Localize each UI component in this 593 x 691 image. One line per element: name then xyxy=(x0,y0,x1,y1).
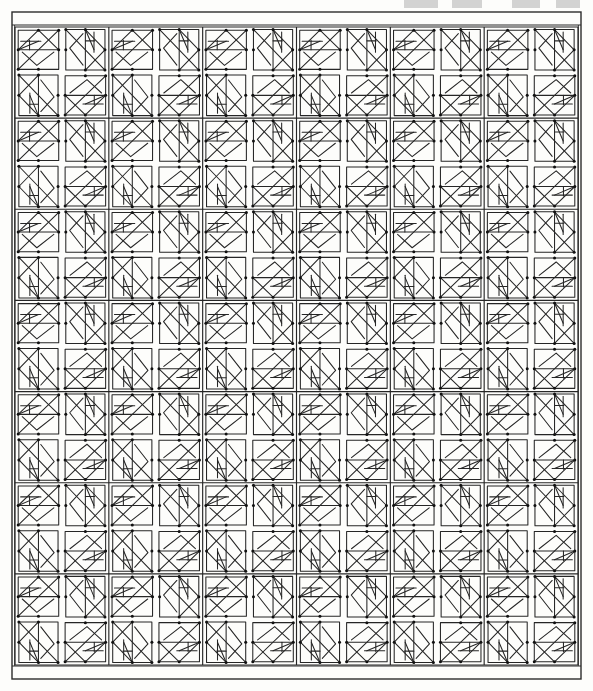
vertex-dot xyxy=(64,276,67,279)
vertex-dot xyxy=(57,388,60,391)
vertex-dot xyxy=(17,276,20,279)
vertex-dot xyxy=(412,479,415,482)
vertex-dot xyxy=(526,276,529,279)
vertex-dot xyxy=(553,210,556,213)
vertex-dot xyxy=(412,524,415,527)
vertex-dot xyxy=(272,342,275,345)
vertex-dot xyxy=(338,641,341,644)
vertex-dot xyxy=(84,301,87,304)
vertex-dot xyxy=(459,301,462,304)
vertex-dot xyxy=(272,621,275,624)
vertex-dot xyxy=(158,393,161,396)
vertex-dot xyxy=(244,94,247,97)
vertex-dot xyxy=(299,529,302,532)
vertex-dot xyxy=(57,570,60,573)
vertex-dot xyxy=(111,595,114,598)
vertex-dot xyxy=(440,301,443,304)
vertex-dot xyxy=(198,621,201,624)
vertex-dot xyxy=(318,256,321,259)
vertex-dot xyxy=(291,504,294,507)
vertex-dot xyxy=(37,159,40,162)
vertex-dot xyxy=(292,458,295,461)
vertex-dot xyxy=(178,621,181,624)
vertex-dot xyxy=(506,576,509,579)
vertex-dot xyxy=(553,484,556,487)
vertex-dot xyxy=(487,165,490,168)
vertex-dot xyxy=(553,165,556,168)
vertex-dot xyxy=(433,302,436,305)
vertex-dot xyxy=(506,256,509,259)
vertex-dot xyxy=(365,165,368,168)
vertex-dot xyxy=(526,413,529,416)
vertex-dot xyxy=(553,74,556,77)
vertex-dot xyxy=(64,550,67,553)
vertex-dot xyxy=(553,387,556,390)
vertex-dot xyxy=(392,595,395,598)
vertex-dot xyxy=(178,348,181,351)
vertex-dot xyxy=(57,576,60,579)
vertex-dot xyxy=(251,387,254,390)
vertex-dot xyxy=(204,250,207,253)
vertex-dot xyxy=(57,413,60,416)
vertex-dot xyxy=(318,393,321,396)
vertex-dot xyxy=(573,322,576,325)
vertex-dot xyxy=(157,367,160,370)
vertex-dot xyxy=(111,276,114,279)
vertex-dot xyxy=(272,478,275,481)
vertex-dot xyxy=(345,296,348,299)
vertex-dot xyxy=(17,94,20,97)
vertex-dot xyxy=(84,28,87,31)
vertex-dot xyxy=(57,504,60,507)
vertex-dot xyxy=(251,205,254,208)
vertex-dot xyxy=(533,28,536,31)
vertex-dot xyxy=(57,94,60,97)
vertex-dot xyxy=(365,660,368,663)
vertex-dot xyxy=(346,210,349,213)
vertex-dot xyxy=(111,74,114,77)
vertex-dot xyxy=(84,119,87,122)
vertex-dot xyxy=(37,74,40,77)
vertex-dot xyxy=(433,504,436,507)
vertex-dot xyxy=(573,504,576,507)
vertex-dot xyxy=(197,524,200,527)
vertex-dot xyxy=(318,205,321,208)
vertex-dot xyxy=(386,439,389,442)
vertex-dot xyxy=(440,575,443,578)
vertex-dot xyxy=(526,393,529,396)
vertex-dot xyxy=(204,68,207,71)
vertex-dot xyxy=(205,529,208,532)
vertex-dot xyxy=(272,165,275,168)
vertex-dot xyxy=(487,550,490,553)
vertex-dot xyxy=(272,205,275,208)
vertex-dot xyxy=(37,615,40,618)
vertex-dot xyxy=(440,393,443,396)
vertex-dot xyxy=(151,120,154,123)
vertex-dot xyxy=(439,387,442,390)
vertex-dot xyxy=(365,74,368,77)
vertex-dot xyxy=(197,48,200,51)
vertex-dot xyxy=(393,458,396,461)
vertex-dot xyxy=(251,478,254,481)
vertex-dot xyxy=(245,322,248,325)
vertex-dot xyxy=(318,620,321,623)
vertex-dot xyxy=(573,160,576,163)
vertex-dot xyxy=(432,570,435,573)
vertex-dot xyxy=(533,119,536,122)
vertex-dot xyxy=(64,185,67,188)
vertex-dot xyxy=(291,231,294,234)
vertex-dot xyxy=(459,74,462,77)
vertex-dot xyxy=(205,347,208,350)
vertex-dot xyxy=(365,433,368,436)
vertex-dot xyxy=(338,458,341,461)
vertex-dot xyxy=(318,159,321,162)
vertex-dot xyxy=(553,69,556,72)
vertex-dot xyxy=(272,251,275,254)
vertex-dot xyxy=(440,28,443,31)
vertex-dot xyxy=(392,139,395,142)
vertex-dot xyxy=(386,458,389,461)
vertex-dot xyxy=(393,165,396,168)
vertex-dot xyxy=(318,484,321,487)
vertex-dot xyxy=(103,342,106,345)
vertex-dot xyxy=(573,524,576,527)
vertex-dot xyxy=(151,484,154,487)
